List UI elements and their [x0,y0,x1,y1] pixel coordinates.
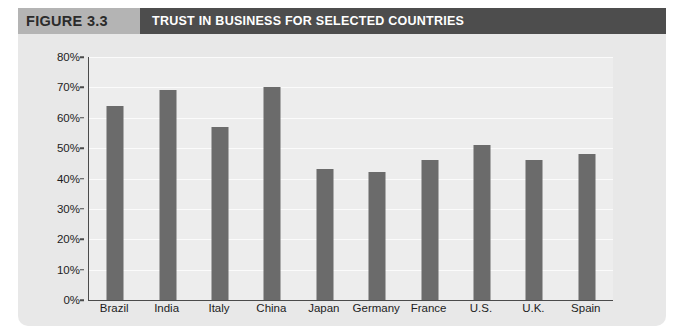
y-axis-tick-label: 70% [57,81,80,93]
y-axis-tick-labels: 0%10%20%30%40%50%60%70%80% [18,57,84,300]
y-axis-tick-label: 10% [57,264,80,276]
x-axis-tick-label: Japan [308,302,339,314]
x-axis-tick-label: Italy [208,302,229,314]
bar [212,127,229,300]
bar [264,87,281,300]
y-axis-tick-label: 60% [57,112,80,124]
x-axis-tick-label: Brazil [100,302,129,314]
plot-area [88,57,613,301]
y-axis-tick-label: 30% [57,203,80,215]
bar [159,90,176,300]
x-axis-tick-label: Spain [571,302,600,314]
x-axis-tick-label: U.S. [470,302,492,314]
y-axis-tick-label: 80% [57,51,80,63]
y-axis-tick-label: 20% [57,233,80,245]
y-axis-tick-label: 0% [63,294,80,306]
y-axis-tick-mark [80,117,84,119]
y-axis-tick-mark [80,208,84,210]
bar [526,160,543,300]
x-axis-tick-label: France [411,302,447,314]
x-axis-tick-label: China [256,302,286,314]
x-axis-tick-labels: BrazilIndiaItalyChinaJapanGermanyFranceU… [88,302,612,322]
y-axis-tick-mark [80,269,84,271]
figure-header: FIGURE 3.3 TRUST IN BUSINESS FOR SELECTE… [18,8,666,34]
y-axis-tick-mark [80,178,84,180]
chart-area: 0%10%20%30%40%50%60%70%80% BrazilIndiaIt… [18,34,666,326]
bar [369,172,386,300]
bars-layer [89,57,613,300]
y-axis-tick-mark [80,87,84,89]
y-axis-tick-label: 40% [57,173,80,185]
figure-root: FIGURE 3.3 TRUST IN BUSINESS FOR SELECTE… [0,0,680,335]
x-axis-tick-label: India [154,302,179,314]
bar [107,106,124,300]
x-axis-tick-label: Germany [353,302,400,314]
x-axis-tick-label: U.K. [522,302,544,314]
bar [421,160,438,300]
y-axis-tick-mark [80,147,84,149]
y-axis-tick-mark [80,56,84,58]
figure-number-label: FIGURE 3.3 [18,8,140,34]
y-axis-tick-mark [80,239,84,241]
bar [474,145,491,300]
bar [316,169,333,300]
y-axis-tick-label: 50% [57,142,80,154]
figure-title: TRUST IN BUSINESS FOR SELECTED COUNTRIES [140,8,666,34]
y-axis-tick-mark [80,299,84,301]
bar [578,154,595,300]
